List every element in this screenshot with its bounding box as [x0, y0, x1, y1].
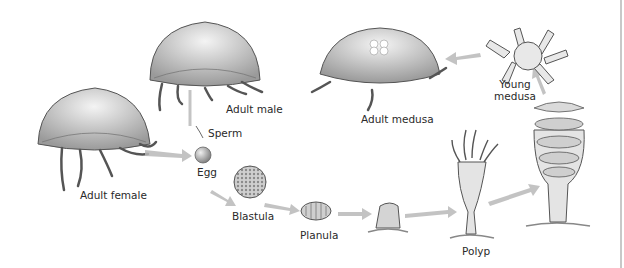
label-young-medusa-line2: medusa	[493, 90, 537, 102]
polyp-icon	[450, 130, 498, 238]
adult-female-jellyfish-icon	[38, 88, 156, 190]
label-polyp: Polyp	[462, 245, 490, 257]
label-adult-male: Adult male	[226, 103, 283, 115]
label-young-medusa-line1: Young	[493, 78, 537, 90]
blastula-icon	[234, 166, 266, 198]
label-young-medusa: Young medusa	[493, 78, 537, 102]
adult-medusa-icon	[312, 28, 446, 110]
label-blastula: Blastula	[232, 210, 274, 222]
life-cycle-illustration	[0, 0, 624, 268]
label-planula: Planula	[300, 229, 338, 241]
label-sperm: Sperm	[208, 127, 242, 139]
planula-icon	[301, 202, 331, 220]
strobila-icon	[526, 102, 590, 226]
label-egg: Egg	[197, 166, 217, 178]
right-edge-divider	[620, 0, 622, 268]
young-medusa-icon	[486, 28, 568, 84]
settled-planula-icon	[368, 203, 408, 232]
label-adult-female: Adult female	[80, 189, 147, 201]
label-adult-medusa: Adult medusa	[361, 113, 434, 125]
